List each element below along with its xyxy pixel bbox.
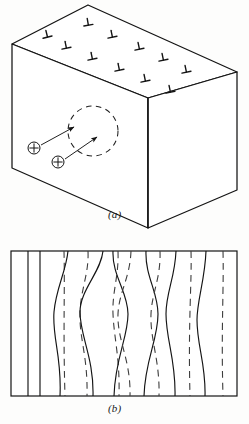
panel-a <box>12 5 237 228</box>
point-defect-2 <box>52 156 64 168</box>
cross-section-frame <box>11 251 237 396</box>
panel-b <box>11 251 237 396</box>
point-defect-1 <box>28 142 40 154</box>
panel-a-caption: (a) <box>108 208 121 220</box>
block-right-face <box>148 72 237 228</box>
figure-canvas <box>0 0 249 424</box>
panel-b-caption: (b) <box>108 402 121 414</box>
figure-root: (a) (b) <box>0 0 249 424</box>
